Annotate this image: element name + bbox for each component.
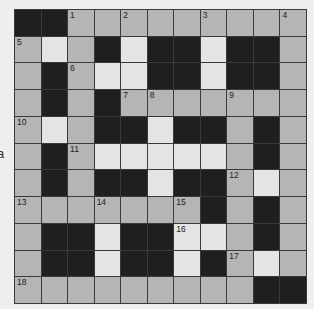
answer-cell[interactable]: 1: [68, 10, 94, 36]
block-cell: [42, 90, 68, 116]
answer-cell[interactable]: [68, 277, 94, 303]
answer-cell[interactable]: [15, 224, 41, 250]
answer-cell[interactable]: [201, 37, 227, 63]
answer-cell[interactable]: [121, 197, 147, 223]
answer-cell[interactable]: [227, 277, 253, 303]
answer-cell[interactable]: 12: [227, 170, 253, 196]
clue-number: 12: [229, 171, 238, 180]
answer-cell[interactable]: [121, 37, 147, 63]
answer-cell[interactable]: [174, 251, 200, 277]
answer-cell[interactable]: [148, 117, 174, 143]
answer-cell[interactable]: [15, 170, 41, 196]
answer-cell[interactable]: [148, 144, 174, 170]
answer-cell[interactable]: 8: [148, 90, 174, 116]
answer-cell[interactable]: [227, 144, 253, 170]
answer-cell[interactable]: 3: [201, 10, 227, 36]
answer-cell[interactable]: [254, 90, 280, 116]
answer-cell[interactable]: 16: [174, 224, 200, 250]
block-cell: [42, 144, 68, 170]
answer-cell[interactable]: [95, 63, 121, 89]
block-cell: [68, 224, 94, 250]
answer-cell[interactable]: 18: [15, 277, 41, 303]
answer-cell[interactable]: [201, 277, 227, 303]
answer-cell[interactable]: [42, 277, 68, 303]
answer-cell[interactable]: 13: [15, 197, 41, 223]
answer-cell[interactable]: [42, 197, 68, 223]
answer-cell[interactable]: [148, 10, 174, 36]
answer-cell[interactable]: [15, 90, 41, 116]
answer-cell[interactable]: [254, 170, 280, 196]
answer-cell[interactable]: [148, 197, 174, 223]
block-cell: [95, 170, 121, 196]
answer-cell[interactable]: [15, 144, 41, 170]
clue-number: 10: [17, 118, 26, 127]
answer-cell[interactable]: [121, 144, 147, 170]
answer-cell[interactable]: [95, 10, 121, 36]
answer-cell[interactable]: [280, 170, 306, 196]
answer-cell[interactable]: [121, 277, 147, 303]
answer-cell[interactable]: 14: [95, 197, 121, 223]
answer-cell[interactable]: [68, 117, 94, 143]
answer-cell[interactable]: 15: [174, 197, 200, 223]
answer-cell[interactable]: [280, 37, 306, 63]
block-cell: [42, 170, 68, 196]
answer-cell[interactable]: 11: [68, 144, 94, 170]
block-cell: [148, 37, 174, 63]
block-cell: [95, 117, 121, 143]
answer-cell[interactable]: 6: [68, 63, 94, 89]
answer-cell[interactable]: [280, 224, 306, 250]
answer-cell[interactable]: 7: [121, 90, 147, 116]
answer-cell[interactable]: [254, 251, 280, 277]
answer-cell[interactable]: [174, 144, 200, 170]
answer-cell[interactable]: 5: [15, 37, 41, 63]
answer-cell[interactable]: [254, 10, 280, 36]
block-cell: [227, 63, 253, 89]
answer-cell[interactable]: [148, 170, 174, 196]
answer-cell[interactable]: [201, 144, 227, 170]
answer-cell[interactable]: [15, 63, 41, 89]
answer-cell[interactable]: [95, 224, 121, 250]
answer-cell[interactable]: [68, 170, 94, 196]
block-cell: [121, 251, 147, 277]
block-cell: [254, 63, 280, 89]
answer-cell[interactable]: [68, 37, 94, 63]
answer-cell[interactable]: [280, 117, 306, 143]
block-cell: [280, 277, 306, 303]
answer-cell[interactable]: 2: [121, 10, 147, 36]
answer-cell[interactable]: 17: [227, 251, 253, 277]
clue-number: 18: [17, 278, 26, 287]
answer-cell[interactable]: [201, 224, 227, 250]
block-cell: [174, 170, 200, 196]
answer-cell[interactable]: [174, 10, 200, 36]
clue-number: 7: [123, 91, 128, 100]
answer-cell[interactable]: [201, 63, 227, 89]
answer-cell[interactable]: 10: [15, 117, 41, 143]
answer-cell[interactable]: [227, 117, 253, 143]
answer-cell[interactable]: [68, 197, 94, 223]
answer-cell[interactable]: [42, 117, 68, 143]
answer-cell[interactable]: [174, 277, 200, 303]
answer-cell[interactable]: [227, 197, 253, 223]
answer-cell[interactable]: [227, 10, 253, 36]
block-cell: [42, 63, 68, 89]
answer-cell[interactable]: [95, 251, 121, 277]
answer-cell[interactable]: [280, 90, 306, 116]
answer-cell[interactable]: [201, 90, 227, 116]
answer-cell[interactable]: [42, 37, 68, 63]
answer-cell[interactable]: 4: [280, 10, 306, 36]
answer-cell[interactable]: [15, 251, 41, 277]
answer-cell[interactable]: [280, 197, 306, 223]
answer-cell[interactable]: [174, 90, 200, 116]
answer-cell[interactable]: [227, 224, 253, 250]
clue-number: 2: [123, 11, 128, 20]
clue-number: 9: [229, 91, 234, 100]
answer-cell[interactable]: [95, 144, 121, 170]
answer-cell[interactable]: [68, 90, 94, 116]
answer-cell[interactable]: [148, 277, 174, 303]
answer-cell[interactable]: 9: [227, 90, 253, 116]
answer-cell[interactable]: [95, 277, 121, 303]
answer-cell[interactable]: [121, 63, 147, 89]
answer-cell[interactable]: [280, 251, 306, 277]
answer-cell[interactable]: [280, 63, 306, 89]
answer-cell[interactable]: [280, 144, 306, 170]
